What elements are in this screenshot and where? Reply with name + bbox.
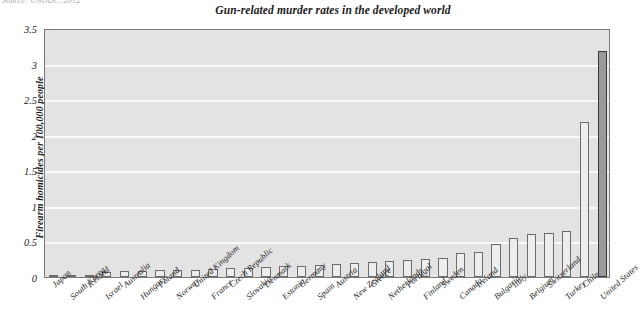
y-axis-tick-label: 0.5 bbox=[0, 237, 37, 248]
x-axis-tick-label: Finland bbox=[421, 275, 448, 301]
bar-japan bbox=[49, 275, 58, 277]
bar-france bbox=[208, 269, 217, 277]
bar-belgium bbox=[527, 234, 536, 277]
bar-bulgaria bbox=[491, 244, 500, 277]
bar-norway bbox=[173, 270, 182, 277]
bar-united-kingdom bbox=[191, 270, 200, 277]
y-axis-tick-label: 0 bbox=[0, 273, 37, 284]
bar-austria bbox=[332, 264, 341, 277]
page-title: Gun-related murder rates in the develope… bbox=[0, 4, 620, 16]
bar-italy bbox=[509, 238, 518, 277]
bar-israel bbox=[102, 272, 111, 277]
y-axis-tick-label: 1.5 bbox=[0, 166, 37, 177]
x-axis-tick-label: Canada bbox=[457, 275, 484, 301]
bar-series bbox=[45, 30, 609, 277]
bar-united-states bbox=[598, 51, 607, 277]
x-axis-tick-label: Norway bbox=[174, 275, 201, 301]
bar-turkey bbox=[562, 231, 571, 277]
plot-area bbox=[44, 29, 610, 278]
bar-hungary bbox=[138, 271, 147, 277]
bar-czech-republic bbox=[226, 268, 235, 277]
bar-south-korea bbox=[67, 275, 76, 277]
bar-new-zealand bbox=[350, 263, 359, 277]
bar-sweden bbox=[438, 258, 447, 277]
x-axis-tick-label: Estonia bbox=[280, 276, 307, 301]
bar-finland bbox=[421, 259, 430, 277]
bar-netherlands bbox=[385, 261, 394, 277]
bar-germany bbox=[297, 266, 306, 277]
bar-portugal bbox=[403, 260, 412, 277]
bar-slovakia bbox=[244, 268, 253, 277]
x-axis-tick-label: Belgium bbox=[527, 274, 555, 301]
bar-iceland bbox=[85, 275, 94, 277]
bar-canada bbox=[456, 253, 465, 277]
bar-greece bbox=[368, 262, 377, 277]
y-axis-tick-label: 3.5 bbox=[0, 24, 37, 35]
x-axis-tick-label: Spain bbox=[315, 281, 337, 302]
bar-switzerland bbox=[544, 233, 553, 277]
y-axis-tick-label: 3 bbox=[0, 59, 37, 70]
bar-ireland bbox=[474, 252, 483, 277]
x-axis-tick-label: Turkey bbox=[563, 278, 588, 301]
bar-australia bbox=[120, 271, 129, 277]
bar-estonia bbox=[279, 266, 288, 277]
x-axis-tick-label: Israel bbox=[103, 280, 125, 301]
y-axis-tick-labels: 00.511.522.533.5 bbox=[0, 0, 42, 336]
bar-poland bbox=[155, 270, 164, 277]
y-axis-tick-label: 2 bbox=[0, 130, 37, 141]
x-axis-tick-label: France bbox=[209, 277, 235, 301]
bar-spain bbox=[315, 265, 324, 277]
bar-chile bbox=[580, 122, 589, 277]
y-axis-tick-label: 1 bbox=[0, 201, 37, 212]
bar-denmark bbox=[261, 267, 270, 277]
y-axis-tick-label: 2.5 bbox=[0, 95, 37, 106]
